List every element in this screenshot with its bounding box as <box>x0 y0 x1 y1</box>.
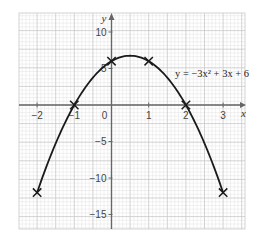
x-tick-label: −2 <box>31 110 43 121</box>
y-tick-label: −10 <box>90 173 107 184</box>
x-tick-label: 2 <box>183 110 189 121</box>
equation-label: y = −3x² + 3x + 6 <box>175 68 249 79</box>
y-tick-label: −15 <box>90 209 107 220</box>
x-tick-label: 1 <box>146 110 152 121</box>
y-tick-label: −5 <box>95 136 107 147</box>
x-tick-label: 0 <box>102 110 108 121</box>
y-axis-arrow-icon <box>109 13 115 20</box>
x-tick-label: 3 <box>220 110 226 121</box>
grid-minor <box>19 13 245 229</box>
y-tick-label: 10 <box>95 27 107 38</box>
y-axis-label: y <box>101 12 107 24</box>
x-axis-label: x <box>240 107 246 119</box>
parabola-chart: x y −2−10123 105−5−10−15 y = −3x² + 3x +… <box>0 0 271 240</box>
